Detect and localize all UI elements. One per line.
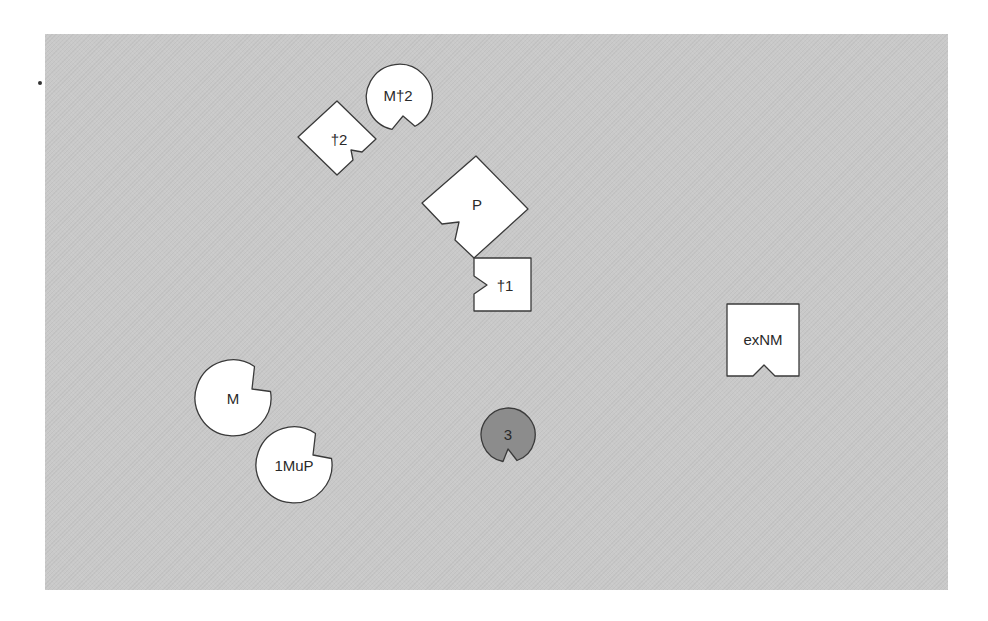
node-1mup[interactable]: 1MuP <box>256 427 332 503</box>
node-label: 1MuP <box>274 457 313 474</box>
node-label: M†2 <box>383 87 412 104</box>
node-dagger-1[interactable]: †1 <box>474 258 531 311</box>
node-label: exNM <box>743 331 782 348</box>
node-label: †2 <box>331 131 348 148</box>
node-dagger-2[interactable]: †2 <box>298 101 376 175</box>
node-label: 3 <box>504 426 512 443</box>
node-p[interactable]: P <box>422 156 528 258</box>
node-3[interactable]: 3 <box>481 408 535 462</box>
node-label: P <box>472 196 482 213</box>
node-label: M <box>227 390 240 407</box>
diagram-svg: M†2 †2 P †1 exNM M 1MuP 3 <box>0 0 988 621</box>
node-m[interactable]: M <box>195 360 271 436</box>
node-label: †1 <box>497 277 514 294</box>
node-exnm[interactable]: exNM <box>727 304 799 376</box>
node-m-dagger-2[interactable]: M†2 <box>366 64 432 129</box>
